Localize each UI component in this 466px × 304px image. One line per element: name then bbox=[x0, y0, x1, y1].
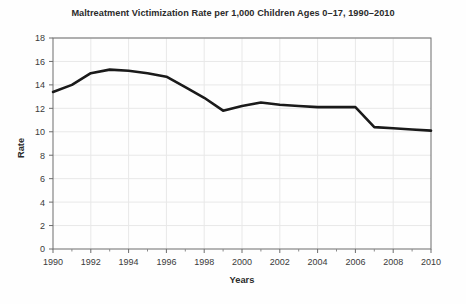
y-axis-title: Rate bbox=[16, 138, 26, 158]
y-axis-tick-labels: 024681012141618 bbox=[35, 33, 45, 254]
x-tick-label: 2000 bbox=[232, 257, 252, 267]
y-tick-label: 12 bbox=[35, 104, 45, 114]
x-tick-label: 1996 bbox=[156, 257, 176, 267]
y-tick-label: 6 bbox=[40, 174, 45, 184]
x-axis-title: Years bbox=[230, 275, 255, 285]
y-tick-label: 8 bbox=[40, 151, 45, 161]
y-tick-label: 2 bbox=[40, 221, 45, 231]
x-tick-label: 2008 bbox=[383, 257, 403, 267]
y-tick-label: 4 bbox=[40, 198, 45, 208]
x-tick-label: 1998 bbox=[194, 257, 214, 267]
chart-figure: Maltreatment Victimization Rate per 1,00… bbox=[0, 0, 466, 304]
x-tick-label: 1992 bbox=[81, 257, 101, 267]
x-axis-tick-labels: 1990199219941996199820002002200420062008… bbox=[43, 257, 441, 267]
y-tick-label: 14 bbox=[35, 80, 45, 90]
y-tick-label: 10 bbox=[35, 127, 45, 137]
x-tick-label: 1990 bbox=[43, 257, 63, 267]
x-tick-label: 2006 bbox=[345, 257, 365, 267]
x-tick-label: 2004 bbox=[308, 257, 328, 267]
y-tick-label: 0 bbox=[40, 244, 45, 254]
line-chart-plot: 024681012141618 199019921994199619982000… bbox=[0, 0, 466, 304]
x-tick-label: 1994 bbox=[119, 257, 139, 267]
y-axis-ticks bbox=[49, 38, 53, 249]
y-tick-label: 18 bbox=[35, 33, 45, 43]
x-tick-label: 2002 bbox=[270, 257, 290, 267]
y-tick-label: 16 bbox=[35, 57, 45, 67]
x-tick-label: 2010 bbox=[421, 257, 441, 267]
